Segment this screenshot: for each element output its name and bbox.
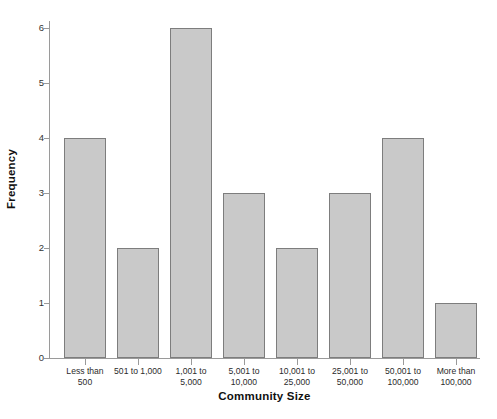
bar <box>64 138 106 358</box>
y-axis-title-label: Frequency <box>5 149 17 209</box>
y-axis-tick-labels: 0123456 <box>22 0 44 419</box>
y-axis-tick-mark <box>44 83 49 84</box>
x-axis-title: Community Size <box>49 390 480 402</box>
y-axis-tick-label: 1 <box>22 298 44 308</box>
y-axis-tick-label: 6 <box>22 23 44 33</box>
x-axis-tick-label: 10,001 to 25,000 <box>267 366 328 388</box>
y-axis-tick-mark <box>44 303 49 304</box>
y-axis-tick-label: 5 <box>22 78 44 88</box>
bar <box>223 193 265 358</box>
plot-area <box>0 0 497 419</box>
x-axis-tick-mark <box>191 359 192 365</box>
y-axis-tick-mark <box>44 138 49 139</box>
x-axis-tick-label: 1,001 to 5,000 <box>161 366 222 388</box>
x-axis-tick-label: 501 to 1,000 <box>108 366 169 377</box>
x-axis-tick-mark <box>138 359 139 365</box>
x-axis-tick-label: Less than 500 <box>55 366 116 388</box>
x-axis-tick-mark <box>456 359 457 365</box>
x-axis-line <box>49 358 480 359</box>
bar <box>276 248 318 358</box>
bar <box>382 138 424 358</box>
y-axis-tick-label: 3 <box>22 188 44 198</box>
y-axis-tick-label: 0 <box>22 353 44 363</box>
y-axis-tick-label: 2 <box>22 243 44 253</box>
y-axis-tick-label: 4 <box>22 133 44 143</box>
y-axis-tick-mark <box>44 193 49 194</box>
x-axis-tick-label: 5,001 to 10,000 <box>214 366 275 388</box>
y-axis-tick-mark <box>44 28 49 29</box>
y-axis-tick-mark <box>44 248 49 249</box>
x-axis-tick-label: 25,001 to 50,000 <box>320 366 381 388</box>
x-axis-tick-label: 50,001 to 100,000 <box>373 366 434 388</box>
bar <box>170 28 212 358</box>
bar <box>435 303 477 358</box>
x-axis-tick-mark <box>85 359 86 365</box>
x-axis-tick-label: More than 100,000 <box>426 366 487 388</box>
y-axis-title: Frequency <box>0 0 22 358</box>
bar-chart: Frequency 0123456 Community Size Less th… <box>0 0 497 419</box>
x-axis-tick-mark <box>244 359 245 365</box>
x-axis-tick-mark <box>297 359 298 365</box>
bar <box>117 248 159 358</box>
x-axis-tick-mark <box>350 359 351 365</box>
x-axis-tick-mark <box>403 359 404 365</box>
bar <box>329 193 371 358</box>
y-axis-tick-mark <box>44 358 49 359</box>
y-axis-line <box>49 21 50 359</box>
